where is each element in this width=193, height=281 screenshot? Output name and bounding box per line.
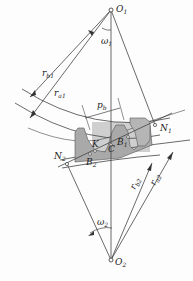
rb2-arrow (147, 163, 152, 171)
gear-meshing-diagram: O1 O2 ω1 ω2 rb1 ra1 rb2 ra2 pb N1 N2 K C… (0, 0, 193, 281)
label-omega1: ω1 (101, 36, 112, 47)
line-O2-N2 (67, 164, 111, 260)
point-N2 (65, 162, 68, 165)
rb1-line (30, 10, 111, 97)
pb-extension-right (118, 98, 124, 120)
point-B1 (127, 136, 130, 139)
ra2-arrow (167, 152, 173, 160)
point-K (94, 150, 97, 153)
label-N2: N2 (53, 151, 66, 162)
label-ra1: ra1 (54, 88, 66, 99)
label-rb2: rb2 (128, 176, 143, 192)
point-O1 (109, 8, 113, 12)
point-N1 (153, 123, 156, 126)
label-K: K (91, 139, 100, 149)
point-B2 (89, 153, 92, 156)
ra2-line (111, 152, 173, 260)
label-C: C (108, 144, 115, 154)
rb1-arrow (30, 90, 36, 97)
omega1-arc (102, 28, 111, 30)
diagram-svg: O1 O2 ω1 ω2 rb1 ra1 rb2 ra2 pb N1 N2 K C… (0, 0, 193, 281)
omega2-arrow (88, 231, 94, 236)
rb2-line (111, 163, 152, 260)
label-rb1: rb1 (42, 68, 54, 79)
label-pb: pb (97, 100, 107, 111)
label-omega2: ω2 (97, 217, 108, 228)
label-O1: O1 (116, 4, 127, 15)
label-N1: N1 (159, 123, 172, 134)
line-O1-N1 (111, 10, 155, 125)
label-O2: O2 (115, 257, 126, 268)
point-O2 (109, 258, 113, 262)
